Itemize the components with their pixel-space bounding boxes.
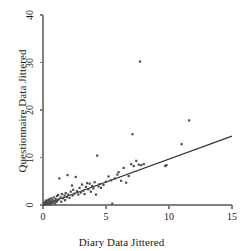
regression-line [43, 136, 232, 205]
data-point [85, 186, 87, 188]
trendline [43, 136, 232, 205]
data-point [114, 177, 116, 179]
data-point [139, 60, 141, 62]
data-point [131, 133, 133, 135]
data-point [72, 194, 74, 196]
x-axis-title: Diary Data Jittered [0, 236, 243, 248]
data-point [77, 193, 79, 195]
data-point [63, 194, 65, 196]
data-point [51, 199, 53, 201]
data-point [181, 143, 183, 145]
data-point [73, 193, 75, 195]
data-point [58, 177, 60, 179]
data-point [133, 165, 135, 167]
data-point [64, 199, 66, 201]
data-point [58, 198, 60, 200]
data-point [138, 164, 140, 166]
data-point [72, 189, 74, 191]
data-point [89, 183, 91, 185]
data-point [97, 185, 99, 187]
data-point [135, 160, 137, 162]
data-point [65, 192, 67, 194]
data-point [140, 164, 142, 166]
y-axis-title: Questionnaire Data Jittered [16, 26, 28, 196]
data-point [130, 163, 132, 165]
data-point [143, 163, 145, 165]
y-tick-label: 40 [24, 10, 35, 20]
data-point [99, 183, 101, 185]
y-tick-label: 0 [24, 203, 35, 208]
data-point [111, 202, 113, 204]
data-point [83, 193, 85, 195]
data-point [165, 164, 167, 166]
data-point [125, 182, 127, 184]
data-point [78, 187, 80, 189]
axis-group [40, 15, 233, 209]
data-point [118, 171, 120, 173]
data-point [57, 194, 59, 196]
data-point [123, 167, 125, 169]
data-point [95, 193, 97, 195]
data-point [81, 183, 83, 185]
data-point [87, 188, 89, 190]
data-point [55, 198, 57, 200]
data-point [71, 184, 73, 186]
data-point [53, 200, 55, 202]
data-point [188, 119, 190, 121]
plot-canvas [0, 0, 243, 251]
data-point [66, 196, 68, 198]
data-point [92, 187, 94, 189]
data-point [100, 187, 102, 189]
data-point [96, 155, 98, 157]
data-point [76, 190, 78, 192]
data-point [62, 197, 64, 199]
data-point [128, 175, 130, 177]
scatter-plot-figure: 010203040051015 Diary Data Jittered Ques… [0, 0, 243, 251]
data-point [116, 174, 118, 176]
data-point [94, 181, 96, 183]
data-point [70, 191, 72, 193]
data-point [61, 193, 63, 195]
data-point [110, 179, 112, 181]
data-point [107, 175, 109, 177]
data-point [53, 196, 55, 198]
data-point [82, 190, 84, 192]
x-tick-label: 10 [164, 211, 174, 222]
data-point [105, 181, 107, 183]
data-point [120, 180, 122, 182]
x-tick-label: 15 [227, 211, 237, 222]
data-point [60, 196, 62, 198]
data-point [68, 197, 70, 199]
data-point [91, 185, 93, 187]
data-point [66, 174, 68, 176]
data-point [90, 191, 92, 193]
x-tick-label: 5 [104, 211, 109, 222]
data-point [86, 182, 88, 184]
data-point [67, 193, 69, 195]
data-point [60, 201, 62, 203]
data-point [75, 176, 77, 178]
x-tick-label: 0 [41, 211, 46, 222]
data-point [102, 184, 104, 186]
data-point [80, 192, 82, 194]
data-points [43, 60, 191, 205]
